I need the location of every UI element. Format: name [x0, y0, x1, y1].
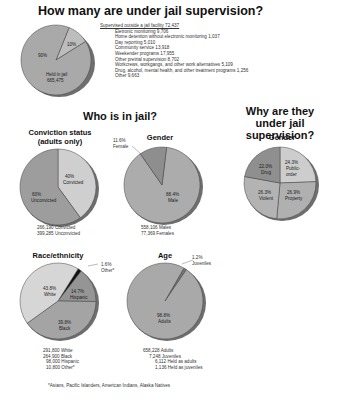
svg-text:60%: 60%	[32, 192, 41, 197]
held-count: 665,475	[47, 78, 64, 83]
conviction-counts: 266,190 Convicted 399,285 Unconvicted	[37, 225, 80, 236]
held-pct-label: 90%	[38, 53, 47, 58]
svg-text:43.8%: 43.8%	[43, 286, 56, 291]
race-counts: 291,800 White 264,900 Black 98,000 Hispa…	[43, 348, 79, 370]
pie-supervision: 90% 10% Held in jail 665,475	[18, 24, 98, 100]
pie-conviction: 40% Convicted 60% Unconvicted	[18, 148, 102, 232]
svg-text:Property: Property	[285, 196, 303, 201]
svg-text:Convicted: Convicted	[63, 180, 84, 185]
pie-slice	[127, 263, 203, 339]
svg-text:40%: 40%	[65, 174, 74, 179]
pie-age: 98.8% Adults	[125, 262, 209, 346]
gender-title: Gender	[140, 133, 180, 142]
svg-text:Public-: Public-	[286, 166, 301, 171]
age-counts: 658,228 Adults 7,248 Juveniles 6,112 Hel…	[143, 348, 203, 370]
pie-race: 43.8% White 14.7% Hispanic 39.8% Black	[18, 262, 102, 346]
gender-counts: 558,106 Males 77,369 Females	[141, 225, 174, 236]
conviction-title: Conviction status (adults only)	[20, 128, 100, 146]
svg-text:14.7%: 14.7%	[71, 289, 84, 294]
supervision-breakdown-list: Supervised outside a jail facility 72,43…	[100, 23, 248, 79]
svg-text:88.4%: 88.4%	[166, 192, 179, 197]
list-item: Workcrews, workgangs, and other work alt…	[115, 62, 248, 68]
svg-text:order: order	[286, 172, 297, 177]
svg-text:Black: Black	[59, 326, 71, 331]
juvenile-label: 1.2% Juveniles	[192, 255, 211, 266]
offense-title: Gender	[262, 133, 302, 142]
main-title: How many are under jail supervision?	[38, 4, 263, 18]
svg-text:White: White	[44, 292, 56, 297]
list-item: Other 9,663	[115, 73, 248, 79]
svg-text:24.3%: 24.3%	[285, 160, 298, 165]
svg-text:Male: Male	[168, 198, 178, 203]
outside-pct-label: 10%	[67, 42, 76, 47]
svg-text:39.8%: 39.8%	[58, 320, 71, 325]
age-title: Age	[150, 251, 180, 260]
svg-text:Adults: Adults	[158, 319, 171, 324]
svg-text:Unconvicted: Unconvicted	[31, 198, 57, 203]
svg-text:Violent: Violent	[259, 196, 274, 201]
svg-text:22.0%: 22.0%	[259, 164, 272, 169]
pie-offense: 22.0% Drug 24.3% Public- order 26.3% Vio…	[242, 146, 322, 226]
svg-text:Drug: Drug	[261, 170, 271, 175]
pie-slice	[280, 147, 316, 183]
held-label: Held in jail	[46, 72, 67, 77]
svg-text:26.9%: 26.9%	[287, 190, 300, 195]
pie-gender: 88.4% Male	[122, 146, 206, 230]
footnote: *Asians, Pacific Islanders, American Ind…	[48, 383, 170, 389]
other-race-label: 1.6% Other*	[101, 262, 114, 273]
svg-text:26.3%: 26.3%	[258, 190, 271, 195]
svg-text:98.8%: 98.8%	[157, 313, 170, 318]
race-title: Race/ethnicity	[28, 251, 88, 260]
female-label: 11.6% Female	[113, 138, 128, 149]
svg-text:Hispanic: Hispanic	[70, 295, 88, 300]
section-title-who: Who is in jail?	[70, 110, 170, 122]
